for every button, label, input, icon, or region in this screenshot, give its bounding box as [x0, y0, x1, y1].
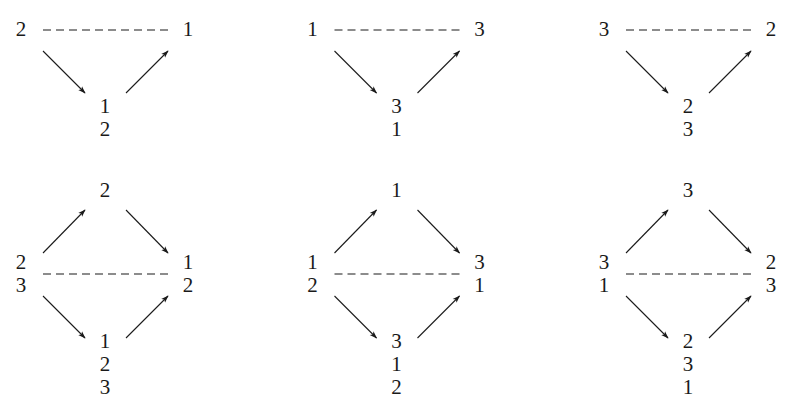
node-left: 2 — [9, 18, 33, 41]
node-top: 1 — [385, 179, 409, 202]
diagram-canvas: 211213313223223121231123131233123231 — [0, 0, 789, 418]
node-left: 1 — [301, 18, 325, 41]
arrow-edge — [626, 51, 668, 93]
arrow-edge — [43, 296, 85, 338]
arrow-edge — [126, 51, 168, 93]
node-bottom: 2 — [676, 95, 700, 118]
node-bottom: 3 — [676, 353, 700, 376]
node-left: 3 — [592, 251, 616, 274]
arrow-edge — [418, 51, 460, 93]
node-right: 3 — [468, 251, 492, 274]
node-left: 3 — [9, 274, 33, 297]
arrow-edge — [335, 296, 377, 338]
node-bottom: 1 — [93, 95, 117, 118]
arrow-edge — [126, 210, 168, 253]
node-right: 1 — [176, 18, 200, 41]
node-right: 1 — [176, 251, 200, 274]
arrow-edge — [126, 296, 168, 338]
arrow-edge — [43, 210, 85, 253]
node-bottom: 3 — [93, 376, 117, 399]
node-left: 2 — [301, 274, 325, 297]
node-bottom: 2 — [385, 376, 409, 399]
node-right: 3 — [759, 274, 783, 297]
node-bottom: 1 — [93, 330, 117, 353]
arrow-edge — [709, 210, 751, 253]
node-bottom: 2 — [676, 330, 700, 353]
node-right: 2 — [759, 18, 783, 41]
node-left: 2 — [9, 251, 33, 274]
node-right: 2 — [759, 251, 783, 274]
arrow-edge — [418, 210, 460, 253]
arrow-edge — [709, 296, 751, 338]
node-left: 3 — [592, 18, 616, 41]
arrow-edge — [626, 210, 668, 253]
node-bottom: 2 — [93, 118, 117, 141]
node-left: 1 — [301, 251, 325, 274]
arrow-edge — [418, 296, 460, 338]
node-bottom: 3 — [385, 95, 409, 118]
arrow-edge — [335, 210, 377, 253]
node-bottom: 1 — [676, 376, 700, 399]
arrow-edge — [43, 51, 85, 93]
node-right: 2 — [176, 274, 200, 297]
arrow-edge — [626, 296, 668, 338]
node-top: 3 — [676, 179, 700, 202]
node-bottom: 3 — [385, 330, 409, 353]
node-right: 1 — [468, 274, 492, 297]
node-bottom: 1 — [385, 118, 409, 141]
node-bottom: 1 — [385, 353, 409, 376]
arrow-edge — [335, 51, 377, 93]
node-left: 1 — [592, 274, 616, 297]
node-bottom: 2 — [93, 353, 117, 376]
node-bottom: 3 — [676, 118, 700, 141]
node-top: 2 — [93, 179, 117, 202]
arrow-edge — [709, 51, 751, 93]
node-right: 3 — [468, 18, 492, 41]
